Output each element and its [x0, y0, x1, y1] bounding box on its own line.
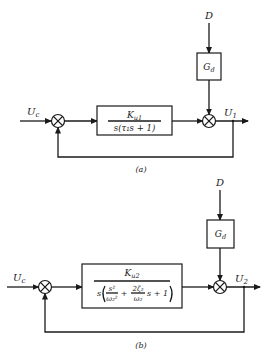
plant-block-b: Ku2 s s² ω₂² + 2ζ₂ ω₂ s + 1: [82, 264, 182, 308]
block-diagram-canvas: Uc Ku1 s(τ₁s + 1) D Gd: [0, 0, 267, 354]
plant-denominator-a: s(τ₁s + 1): [114, 123, 155, 133]
svg-text:s + 1: s + 1: [147, 289, 168, 298]
svg-text:2ζ₂: 2ζ₂: [131, 285, 143, 293]
input-label-b: Uc: [13, 272, 25, 285]
disturbance-label-b: D: [215, 177, 224, 188]
diagram-b: Uc Ku2 s s² ω₂² + 2ζ₂ ω₂ s + 1: [7, 177, 260, 350]
summing-junction-icon: [52, 115, 65, 128]
output-label-a: U1: [224, 107, 237, 120]
disturbance-block-a: Gd: [197, 53, 221, 80]
caption-b: (b): [135, 341, 146, 350]
svg-text:s: s: [97, 289, 101, 298]
summing-junction-icon: [203, 115, 216, 128]
disturbance-block-b: Gd: [207, 220, 234, 248]
svg-text:ω₂: ω₂: [134, 295, 143, 303]
summing-junction-icon: [39, 281, 52, 294]
svg-text:ω₂²: ω₂²: [106, 295, 118, 303]
plant-block-a: Ku1 s(τ₁s + 1): [97, 106, 172, 135]
diagram-a: Uc Ku1 s(τ₁s + 1) D Gd: [20, 10, 248, 174]
input-label-a: Uc: [27, 106, 39, 119]
caption-a: (a): [135, 165, 146, 174]
disturbance-label-a: D: [204, 10, 213, 21]
summing-junction-icon: [214, 281, 227, 294]
svg-text:+: +: [121, 289, 128, 298]
svg-text:s²: s²: [109, 285, 116, 293]
output-label-b: U2: [235, 273, 248, 286]
